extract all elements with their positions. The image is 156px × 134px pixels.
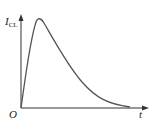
x-axis-arrow-icon (142, 106, 149, 111)
y-axis-label: ICL (4, 15, 18, 29)
y-axis-subscript: CL (9, 21, 18, 29)
origin-label: O (9, 108, 17, 120)
current-time-diagram: ICL O t (0, 0, 156, 134)
current-curve (21, 19, 130, 108)
y-axis-arrow-icon (19, 14, 24, 21)
